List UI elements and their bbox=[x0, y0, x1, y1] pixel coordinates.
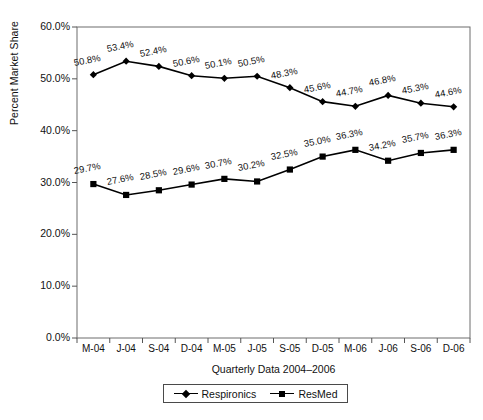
data-point-marker[interactable] bbox=[320, 153, 326, 159]
data-point-marker[interactable] bbox=[221, 75, 228, 82]
data-point-marker[interactable] bbox=[319, 98, 326, 105]
data-point-marker[interactable] bbox=[450, 103, 457, 110]
data-point-marker[interactable] bbox=[287, 166, 293, 172]
data-point-marker[interactable] bbox=[385, 92, 392, 99]
legend-item-respironics[interactable]: Respironics bbox=[174, 388, 257, 400]
data-point-marker[interactable] bbox=[352, 103, 359, 110]
legend-label-respironics: Respironics bbox=[202, 388, 257, 400]
data-point-marker[interactable] bbox=[352, 147, 358, 153]
data-point-marker[interactable] bbox=[90, 181, 96, 187]
data-point-marker[interactable] bbox=[188, 72, 195, 79]
data-point-marker[interactable] bbox=[418, 150, 424, 156]
x-axis-title: Quarterly Data 2004–2006 bbox=[77, 363, 470, 375]
data-point-marker[interactable] bbox=[254, 178, 260, 184]
data-point-marker[interactable] bbox=[451, 147, 457, 153]
series-line-respironics bbox=[93, 61, 453, 107]
chart-legend: Respironics ResMed bbox=[163, 384, 348, 403]
legend-item-resmed[interactable]: ResMed bbox=[270, 388, 337, 400]
data-point-marker[interactable] bbox=[221, 176, 227, 182]
data-point-marker[interactable] bbox=[123, 192, 129, 198]
data-point-marker[interactable] bbox=[123, 58, 130, 65]
data-point-marker[interactable] bbox=[90, 71, 97, 78]
legend-label-resmed: ResMed bbox=[298, 388, 337, 400]
data-point-marker[interactable] bbox=[189, 181, 195, 187]
data-point-marker[interactable] bbox=[417, 100, 424, 107]
market-share-line-chart: Percent Market Share 0.0%10.0%20.0%30.0%… bbox=[0, 0, 483, 420]
data-point-marker[interactable] bbox=[156, 187, 162, 193]
data-point-marker[interactable] bbox=[385, 158, 391, 164]
data-point-marker[interactable] bbox=[155, 63, 162, 70]
square-marker-icon bbox=[270, 389, 294, 399]
data-point-marker[interactable] bbox=[254, 73, 261, 80]
data-point-marker[interactable] bbox=[286, 84, 293, 91]
x-axis-tick-label: D-06 bbox=[434, 343, 474, 354]
diamond-marker-icon bbox=[174, 389, 198, 399]
